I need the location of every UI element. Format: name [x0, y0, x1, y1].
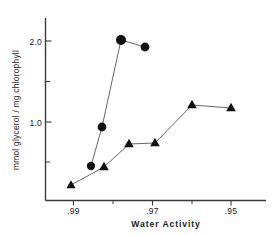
data-point-circle — [141, 43, 150, 52]
x-tick-label-95: .95 — [225, 206, 237, 216]
x-tick-label-97: .97 — [146, 206, 158, 216]
data-point-circle — [116, 35, 126, 45]
x-axis-title: Water Activity — [131, 219, 200, 229]
x-tick-label-99: .99 — [67, 206, 79, 216]
y-tick-label-1: 1.0 — [30, 118, 42, 128]
y-tick-label-2: 2.0 — [30, 37, 42, 47]
data-point-triangle — [66, 180, 75, 188]
data-point-triangle — [226, 103, 236, 111]
scatter-plot: 2.0 1.0 .99 .97 .95 Water Activity mmol … — [0, 0, 274, 235]
data-point-triangle — [187, 100, 197, 108]
y-axis-title: mmol glycerol / mg chlorophyll — [11, 50, 21, 170]
data-point-circle — [98, 123, 107, 132]
data-point-triangle — [124, 139, 134, 147]
series-line-circles — [91, 40, 145, 166]
data-point-triangle — [99, 162, 109, 170]
data-point-circle — [87, 162, 95, 170]
chart-container: 2.0 1.0 .99 .97 .95 Water Activity mmol … — [0, 0, 274, 235]
